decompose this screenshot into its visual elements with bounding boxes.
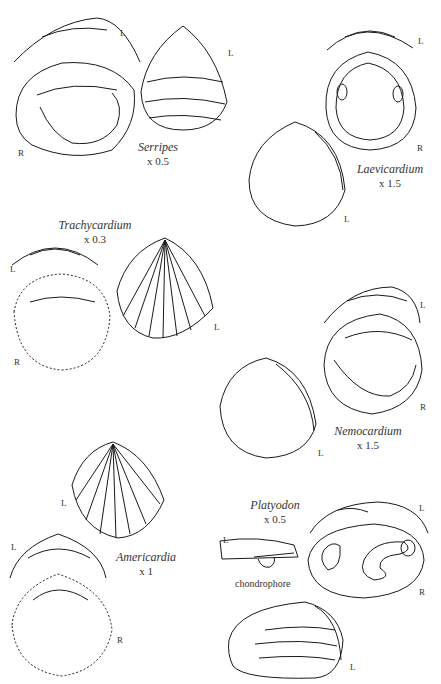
trachycardium-label-l2: L xyxy=(214,322,220,332)
nemocardium-exterior xyxy=(216,356,320,460)
platyodon-label-l1: L xyxy=(419,503,425,513)
serripes-interior-right xyxy=(12,55,138,163)
genus-name: Laevicardium xyxy=(357,162,423,176)
nemocardium-label-l1: L xyxy=(420,300,426,310)
laevicardium-label-r: R xyxy=(417,143,423,153)
americardia-exterior xyxy=(68,440,168,540)
genus-name: Trachycardium xyxy=(59,218,132,232)
laevicardium-label-l2: L xyxy=(344,214,350,224)
laevicardium-exterior xyxy=(245,120,349,228)
trachycardium-hinge-left xyxy=(10,235,100,270)
nemocardium-interior-right xyxy=(320,310,425,416)
americardia-label-l1: L xyxy=(61,498,67,508)
serripes-exterior xyxy=(137,22,229,132)
americardia-caption: Americardia x 1 xyxy=(106,550,186,578)
laevicardium-caption: Laevicardium x 1.5 xyxy=(350,162,430,190)
chondrophore-annotation: chondrophore xyxy=(235,578,291,589)
serripes-label-r: R xyxy=(18,148,24,158)
americardia-label-l2: L xyxy=(11,542,17,552)
genus-name: Americardia xyxy=(116,550,176,564)
nemocardium-label-l2: L xyxy=(318,448,324,458)
genus-name: Serripes xyxy=(138,140,178,154)
trachycardium-interior-right xyxy=(10,272,114,372)
magnification: x 1 xyxy=(106,564,186,578)
serripes-label-l1: L xyxy=(120,28,126,38)
magnification: x 0.5 xyxy=(240,512,310,526)
americardia-label-r: R xyxy=(117,635,123,645)
platyodon-interior-right xyxy=(304,520,428,602)
serripes-caption: Serripes x 0.5 xyxy=(128,140,188,168)
serripes-label-l2: L xyxy=(228,48,234,58)
nemocardium-caption: Nemocardium x 1.5 xyxy=(328,424,408,452)
nemocardium-label-r: R xyxy=(420,402,426,412)
magnification: x 0.5 xyxy=(128,154,188,168)
laevicardium-label-l1: L xyxy=(418,36,424,46)
platyodon-label-r: R xyxy=(419,587,425,597)
platyodon-label-l2: L xyxy=(223,535,229,545)
americardia-interior-right xyxy=(8,570,116,678)
magnification: x 1.5 xyxy=(328,438,408,452)
genus-name: Nemocardium xyxy=(334,424,402,438)
platyodon-caption: Platyodon x 0.5 xyxy=(240,498,310,526)
trachycardium-exterior xyxy=(113,236,215,340)
platyodon-exterior xyxy=(225,600,349,682)
magnification: x 1.5 xyxy=(350,176,430,190)
platyodon-chondrophore-view xyxy=(218,535,300,575)
trachycardium-label-r: R xyxy=(14,357,20,367)
genus-name: Platyodon xyxy=(250,498,299,512)
platyodon-label-l3: L xyxy=(350,662,356,672)
